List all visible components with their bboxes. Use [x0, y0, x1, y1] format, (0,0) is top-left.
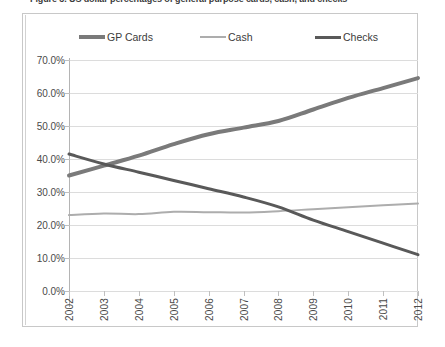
x-axis-label: 2009: [308, 298, 319, 321]
figure-caption: Figure 3. US dollar percentages of gener…: [30, 0, 347, 4]
series-line-cash: [69, 204, 418, 216]
x-axis-label: 2008: [273, 298, 284, 321]
x-axis-label: 2011: [378, 298, 389, 320]
x-axis-label: 2005: [169, 298, 180, 321]
y-axis-tick: [65, 126, 70, 127]
y-axis-label: 30.0%: [23, 187, 65, 198]
x-axis-tick: [348, 291, 349, 296]
y-axis-tick: [65, 60, 70, 61]
y-axis-tick: [65, 159, 70, 160]
x-axis-tick: [244, 291, 245, 296]
y-axis-tick: [65, 225, 70, 226]
legend-swatch-icon-gp-cards: [79, 35, 105, 39]
x-axis-tick: [383, 291, 384, 296]
x-axis-tick: [104, 291, 105, 296]
y-axis-label: 70.0%: [23, 55, 65, 66]
x-axis-tick: [69, 291, 70, 296]
plot-area: [69, 60, 418, 291]
legend-item-cash[interactable]: Cash: [200, 27, 253, 47]
y-axis-label: 0.0%: [23, 286, 65, 297]
x-axis-label: 2010: [343, 298, 354, 321]
chart-legend: GP Cards Cash Checks: [23, 27, 419, 47]
legend-item-checks[interactable]: Checks: [315, 27, 378, 47]
series-lines: [69, 60, 418, 291]
y-axis-label: 50.0%: [23, 121, 65, 132]
legend-label-gp-cards: GP Cards: [107, 31, 153, 43]
x-axis-tick: [418, 291, 419, 296]
y-axis-tick: [65, 258, 70, 259]
x-axis-tick: [139, 291, 140, 296]
x-axis-label: 2004: [134, 298, 145, 321]
chart-container: GP Cards Cash Checks 0.0%10.0%20.0%30.0%…: [22, 13, 418, 327]
legend-label-checks: Checks: [343, 31, 378, 43]
x-axis-label: 2007: [239, 298, 250, 321]
series-line-gp-cards: [69, 78, 418, 175]
x-axis-label: 2003: [99, 298, 110, 321]
legend-swatch-icon-checks: [315, 36, 341, 39]
y-axis-label: 20.0%: [23, 220, 65, 231]
series-line-checks: [69, 154, 418, 255]
y-axis-label: 40.0%: [23, 154, 65, 165]
x-axis-tick: [209, 291, 210, 296]
legend-item-gp-cards[interactable]: GP Cards: [79, 27, 153, 47]
x-axis-label: 2012: [413, 298, 424, 321]
y-axis-label: 10.0%: [23, 253, 65, 264]
x-axis-label: 2002: [64, 298, 75, 321]
y-axis-tick: [65, 93, 70, 94]
x-axis-tick: [174, 291, 175, 296]
legend-swatch-icon-cash: [200, 36, 226, 38]
y-axis-label: 60.0%: [23, 88, 65, 99]
legend-label-cash: Cash: [228, 31, 253, 43]
x-axis-tick: [313, 291, 314, 296]
x-axis-tick: [278, 291, 279, 296]
x-axis-label: 2006: [204, 298, 215, 321]
y-axis-tick: [65, 192, 70, 193]
